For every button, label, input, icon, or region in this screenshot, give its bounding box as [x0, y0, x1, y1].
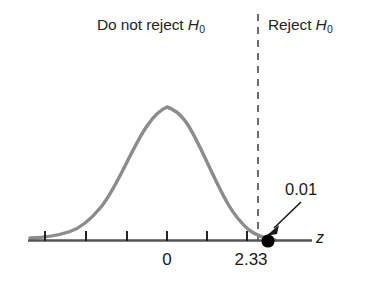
normal-distribution-figure: Do not reject H0 Reject H0 0 2.33 z 0.01	[0, 0, 366, 293]
x-axis-label: z	[316, 229, 324, 247]
normal-curve-path	[30, 107, 275, 240]
annotation-arrow-head	[266, 225, 279, 236]
tail-area-label: 0.01	[285, 180, 317, 199]
x-tick-label-zero: 0	[147, 250, 187, 270]
x-tick-label-critical-value: 2.33	[222, 250, 280, 270]
annotation-arrow-shaft	[274, 202, 301, 228]
critical-point-dot	[261, 234, 274, 247]
alpha-annotation-arrow	[266, 202, 301, 236]
